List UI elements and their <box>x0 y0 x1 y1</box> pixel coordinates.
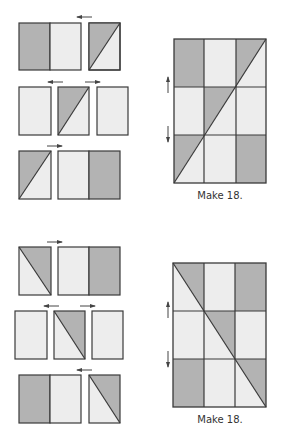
half-square-triangle <box>54 311 85 359</box>
dark-rectangle <box>89 151 120 199</box>
quilt-assembly-diagram <box>0 0 283 447</box>
lower-piece-row-1 <box>19 242 120 295</box>
half-square-triangle <box>89 23 120 70</box>
half-square-triangle <box>89 375 120 423</box>
half-square-triangle <box>58 87 89 135</box>
lower-assembled-unit <box>173 263 266 407</box>
upper-piece-row-1 <box>19 17 120 70</box>
light-rectangle <box>19 87 51 135</box>
dark-rectangle <box>19 375 50 423</box>
upper-assembled-unit <box>174 39 266 183</box>
lower-quantity-label: Make 18. <box>170 414 270 425</box>
dark-rectangle <box>19 23 50 70</box>
upper-piece-row-3 <box>19 146 120 199</box>
light-rectangle <box>58 247 89 295</box>
light-rectangle <box>50 23 81 70</box>
light-rectangle <box>15 311 47 359</box>
dark-rectangle <box>89 247 120 295</box>
light-rectangle <box>50 375 81 423</box>
lower-piece-row-3 <box>19 370 120 423</box>
half-square-triangle <box>19 247 51 295</box>
light-rectangle <box>92 311 123 359</box>
upper-piece-row-2 <box>19 82 128 135</box>
upper-quantity-label: Make 18. <box>170 190 270 201</box>
light-rectangle <box>97 87 128 135</box>
half-square-triangle <box>19 151 51 199</box>
light-rectangle <box>58 151 89 199</box>
lower-piece-row-2 <box>15 306 123 359</box>
